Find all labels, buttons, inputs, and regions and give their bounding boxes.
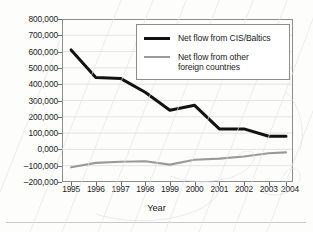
x-tick-label: 2003 (260, 184, 278, 194)
x-tick-label: 1996 (87, 184, 105, 194)
chart-legend: Net flow from CIS/Baltics Net flow from … (136, 24, 290, 80)
y-tick-label: 200,000 (0, 112, 58, 122)
x-tick-label: 1998 (136, 184, 154, 194)
y-tick-label: 600,000 (0, 47, 58, 57)
y-tick-label: –100,000 (0, 161, 58, 171)
x-tick-label: 2001 (210, 184, 228, 194)
x-tick-label: 2000 (186, 184, 204, 194)
y-tick-label: 700,000 (0, 30, 58, 40)
page-bottom-rule (6, 222, 306, 223)
x-tick-label: 1997 (112, 184, 130, 194)
legend-swatch-line-icon (144, 37, 170, 40)
y-axis-tick (57, 182, 62, 183)
x-axis-labels: 1995 1996 1997 1998 1999 2000 2001 2002 … (0, 184, 313, 198)
y-tick-label: 500,000 (0, 63, 58, 73)
legend-item-cis-baltics: Net flow from CIS/Baltics (144, 33, 271, 43)
y-axis-labels: 800,000 700,000 600,000 500,000 400,000 … (0, 19, 58, 182)
x-tick-label: 2004 (281, 184, 299, 194)
x-tick-label: 1999 (161, 184, 179, 194)
y-tick-label: 800,000 (0, 14, 58, 24)
chart-page: 800,000 700,000 600,000 500,000 400,000 … (0, 0, 313, 232)
y-tick-label: 0,000 (0, 144, 58, 154)
y-tick-label: 100,000 (0, 128, 58, 138)
y-tick-label: 400,000 (0, 79, 58, 89)
x-tick-label: 1995 (62, 184, 80, 194)
x-axis-title: Year (0, 203, 313, 213)
series-line-other-foreign (71, 152, 286, 167)
legend-label: Net flow from other foreign countries (178, 52, 249, 73)
legend-swatch-line-icon (144, 56, 170, 58)
x-tick-label: 2002 (235, 184, 253, 194)
legend-label: Net flow from CIS/Baltics (178, 33, 271, 43)
y-tick-label: 300,000 (0, 96, 58, 106)
legend-item-other-foreign: Net flow from other foreign countries (144, 52, 249, 73)
